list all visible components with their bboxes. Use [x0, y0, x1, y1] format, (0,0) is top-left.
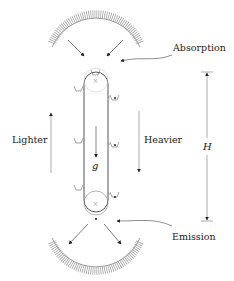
top-mirror [52, 14, 140, 47]
svg-text:×: × [93, 200, 99, 208]
emission-label: Emission [172, 231, 216, 242]
gravity-label: g [92, 160, 98, 171]
emission-pointer [117, 220, 172, 226]
buckets-right [95, 95, 119, 220]
outgoing-light-arrows [69, 224, 121, 244]
lighter-label: Lighter [12, 134, 48, 145]
bottom-mirror [52, 238, 140, 271]
svg-text:×: × [93, 77, 99, 85]
incoming-light-arrows [68, 40, 123, 56]
diagram-canvas: Absorption × × g Lighter Heavier H [0, 0, 234, 281]
height-label: H [202, 141, 212, 152]
absorption-label: Absorption [172, 42, 226, 53]
heavier-label: Heavier [144, 134, 183, 145]
absorption-pointer [121, 55, 172, 61]
